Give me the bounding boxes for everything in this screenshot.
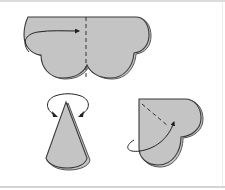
- figure-frame: [0, 0, 225, 190]
- arrowhead-right: [78, 111, 84, 117]
- step-3-heart: [128, 99, 203, 167]
- step-2-cone: [46, 94, 90, 170]
- step-1-cloud: [24, 17, 151, 79]
- folding-diagram: [0, 0, 225, 190]
- arrowhead-left: [52, 111, 58, 117]
